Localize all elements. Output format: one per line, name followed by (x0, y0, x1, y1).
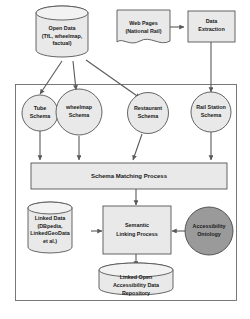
semantic-linking-label-1: Semantic (125, 222, 149, 228)
wheelmap-schema-label-2: Schema (69, 112, 91, 118)
restaurant-schema-label-1: Restaurant (134, 105, 162, 111)
web-pages-label-2: (National Rail) (125, 28, 161, 34)
tube-schema-label-2: Schema (30, 113, 52, 119)
web-pages-label-1: Web Pages (129, 20, 158, 26)
edge-opendata-to-tube (40, 61, 62, 94)
edge-opendata-to-restaurant (86, 60, 140, 98)
railstation-schema-label-1: Rail Station (196, 104, 226, 110)
open-data-label-1: Open Data (49, 25, 77, 31)
linked-data-label-4: et al.) (43, 238, 57, 244)
linked-data-label-2: (DBpedia, (37, 223, 63, 229)
accessibility-ontology-label-1: Accessibility (193, 223, 226, 229)
node-schema-matching-process[interactable]: Schema Matching Process (31, 163, 227, 189)
node-linked-data[interactable]: Linked Data (DBpedia, LinkedGeoData et a… (28, 202, 72, 253)
node-wheelmap-schema[interactable]: wheelmap Schema (56, 89, 102, 135)
node-semantic-linking-process[interactable]: Semantic Linking Process (103, 206, 171, 254)
data-extraction-label-1: Data (206, 18, 219, 24)
schema-matching-label: Schema Matching Process (91, 173, 168, 179)
loa-repository-label-1: Linked Open (120, 274, 153, 280)
node-railstation-schema[interactable]: Rail Station Schema (191, 92, 231, 132)
linked-data-label-3: LinkedGeoData (30, 230, 71, 236)
open-data-label-3: factual) (52, 40, 71, 46)
linked-data-label-1: Linked Data (35, 215, 67, 221)
node-accessibility-ontology[interactable]: Accessibility Ontology (185, 207, 233, 255)
semantic-linking-label-2: Linking Process (116, 231, 158, 237)
open-data-label-2: (TfL, wheelmap, (42, 33, 83, 39)
railstation-schema-label-2: Schema (201, 112, 223, 118)
edge-restaurant-to-matching (133, 134, 142, 160)
node-tube-schema[interactable]: Tube Schema (22, 95, 58, 131)
node-open-data[interactable]: Open Data (TfL, wheelmap, factual) (36, 6, 88, 57)
architecture-diagram: Open Data (TfL, wheelmap, factual) Web P… (0, 0, 250, 319)
node-loa-repository[interactable]: Linked Open Accessibility Data Repositor… (99, 263, 173, 296)
tube-schema-label-1: Tube (34, 105, 46, 111)
edge-opendata-to-wheelmap (73, 61, 76, 90)
wheelmap-schema-label-1: wheelmap (65, 104, 93, 110)
accessibility-ontology-label-2: Ontology (197, 231, 221, 237)
node-web-pages[interactable]: Web Pages (National Rail) (117, 10, 170, 43)
restaurant-schema-label-2: Schema (138, 113, 160, 119)
loa-repository-label-3: Repository (122, 290, 150, 296)
loa-repository-label-2: Accessibility Data (113, 282, 160, 288)
node-restaurant-schema[interactable]: Restaurant Schema (128, 93, 169, 134)
node-data-extraction[interactable]: Data Extraction (188, 11, 235, 42)
data-extraction-label-2: Extraction (198, 26, 224, 32)
